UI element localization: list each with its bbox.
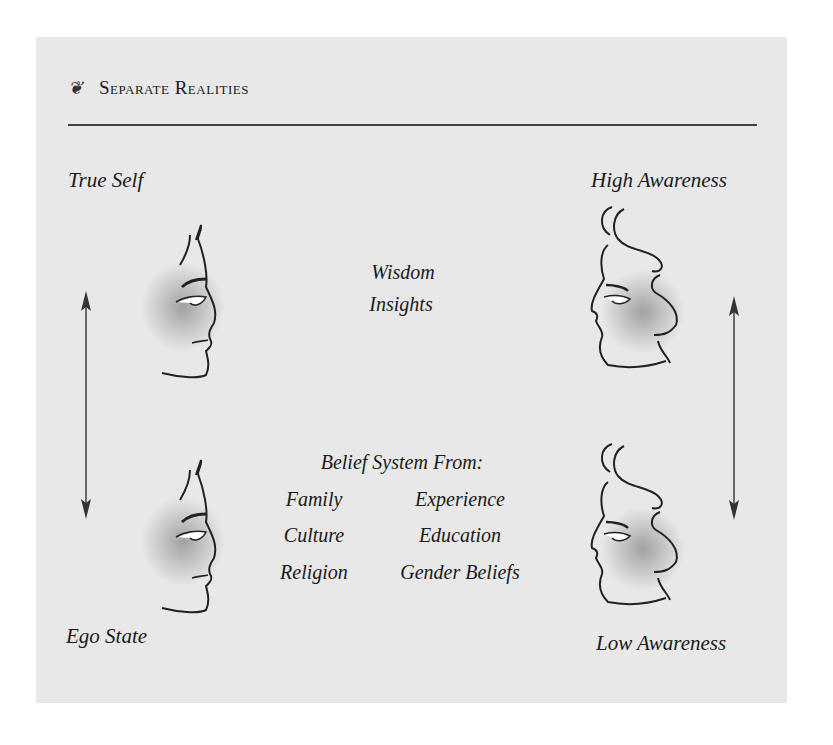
belief-experience: Experience [385, 489, 535, 509]
label-insights: Insights [361, 294, 441, 314]
face-ego-state-icon [128, 460, 238, 620]
fleuron-icon: ❦ [68, 77, 81, 99]
belief-education: Education [385, 525, 535, 545]
face-low-awareness-icon [588, 444, 698, 624]
belief-family: Family [264, 489, 364, 509]
left-double-arrow-icon [76, 291, 96, 521]
label-wisdom: Wisdom [363, 262, 443, 282]
diagram-title: Separate Realities [99, 77, 249, 99]
belief-system-heading: Belief System From: [287, 452, 517, 472]
belief-religion: Religion [264, 562, 364, 582]
face-true-self-icon [128, 225, 238, 385]
right-double-arrow-icon [724, 296, 744, 522]
face-high-awareness-icon [588, 207, 698, 387]
diagram-panel: ❦ Separate Realities True Self Ego State… [36, 37, 787, 703]
belief-gender-beliefs: Gender Beliefs [385, 562, 535, 582]
label-true-self: True Self [68, 170, 143, 191]
header: ❦ Separate Realities [68, 77, 249, 101]
belief-culture: Culture [264, 525, 364, 545]
label-low-awareness: Low Awareness [596, 633, 726, 654]
header-divider [68, 124, 757, 126]
label-high-awareness: High Awareness [591, 170, 727, 191]
label-ego-state: Ego State [66, 626, 147, 647]
